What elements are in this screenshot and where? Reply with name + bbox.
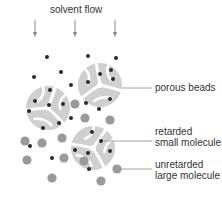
- small-molecule: [50, 156, 54, 160]
- small-molecule: [32, 75, 36, 79]
- large-molecule: [47, 173, 56, 182]
- down-arrow-icon: [113, 20, 117, 37]
- large-molecule: [80, 113, 89, 122]
- small-molecule: [57, 121, 61, 125]
- small-molecule: [86, 54, 90, 58]
- label-retarded-line1: retarded: [155, 126, 221, 137]
- label-unretarded: unretarded large molecule: [155, 159, 220, 181]
- small-molecule: [41, 126, 45, 130]
- small-molecule: [99, 139, 103, 143]
- label-retarded-line2: small molecule: [155, 137, 221, 148]
- small-molecule: [86, 80, 90, 84]
- porous-bead: [20, 79, 77, 136]
- small-molecule: [69, 116, 73, 120]
- large-molecule: [37, 138, 46, 147]
- large-molecule: [105, 115, 114, 124]
- small-molecule: [33, 99, 37, 103]
- small-molecule: [108, 149, 112, 153]
- small-molecule: [90, 130, 94, 134]
- label-unretarded-line1: unretarded: [155, 159, 220, 170]
- small-molecule: [87, 167, 91, 171]
- small-molecule: [114, 56, 118, 60]
- small-molecule: [61, 102, 65, 106]
- small-molecule: [97, 107, 101, 111]
- label-unretarded-line2: large molecule: [155, 170, 220, 181]
- small-molecule: [108, 97, 112, 101]
- small-molecule: [45, 55, 49, 59]
- small-molecule: [28, 144, 32, 148]
- solvent-flow-arrows: [33, 20, 117, 37]
- large-molecule: [57, 133, 66, 142]
- small-molecule: [69, 83, 73, 87]
- diagram-title: solvent flow: [50, 4, 102, 15]
- small-molecule: [73, 148, 77, 152]
- small-molecule: [27, 109, 31, 113]
- porous-bead: [74, 59, 125, 111]
- small-molecule: [111, 77, 115, 81]
- small-molecule: [98, 72, 102, 76]
- large-molecule: [96, 176, 105, 185]
- down-arrow-icon: [73, 20, 77, 37]
- small-molecule: [59, 70, 63, 74]
- small-molecule: [84, 101, 88, 105]
- large-molecule: [70, 99, 79, 108]
- down-arrow-icon: [33, 20, 37, 37]
- large-molecule: [79, 156, 88, 165]
- label-retarded: retarded small molecule: [155, 126, 221, 148]
- small-molecule: [48, 88, 52, 92]
- small-molecule: [86, 151, 90, 155]
- large-molecule: [20, 136, 29, 145]
- large-molecule: [22, 155, 31, 164]
- label-porous-beads: porous beads: [155, 82, 216, 93]
- small-molecule: [109, 68, 113, 72]
- large-molecule: [59, 153, 68, 162]
- small-molecule: [47, 103, 51, 107]
